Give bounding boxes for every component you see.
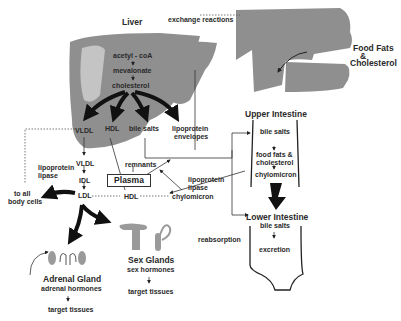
vldl-plasma: VLDL [76, 160, 94, 168]
vldl-liver: VLDL [75, 127, 93, 135]
head-shape [236, 8, 352, 92]
target-tissues-sex: target tissues [128, 288, 174, 296]
upper-intestine-label: Upper Intestine [245, 110, 307, 118]
diagram-canvas [0, 0, 401, 321]
lipoprotein-envelopes-2: envelopes [174, 133, 208, 141]
adrenal-gland-shape [30, 251, 86, 275]
ldl-plasma: LDL [78, 192, 92, 200]
pathway-acetyl: acetyl - coA [113, 52, 152, 60]
ui-bile-salts: bile salts [260, 128, 290, 136]
to-all-label: to all [14, 190, 30, 198]
target-tissues-adrenal: target tissues [48, 306, 94, 314]
idl-plasma: IDL [79, 177, 90, 185]
sex-hormones-label: sex hormones [127, 266, 174, 274]
plasma-box: Plasma [107, 174, 151, 187]
lipase-left-2: lipase [38, 172, 58, 180]
chylomicron-plasma: chylomicron [172, 193, 214, 201]
adrenal-hormones-label: adrenal hormones [41, 285, 102, 293]
intestine-arrow-icon [268, 183, 286, 210]
remnants-label: remnants [125, 161, 157, 169]
lipase-left-1: lipoprotein [38, 164, 74, 172]
reabsorption-label: reabsorption [198, 236, 241, 244]
hdl-plasma: HDL [124, 193, 138, 201]
lipoprotein-envelopes: lipoprotein [172, 125, 208, 133]
pathway-mevalonate: mevalonate [113, 67, 152, 75]
bile-salts-liver: bile salts [129, 125, 159, 133]
liver-label: Liver [122, 18, 142, 26]
body-cells-label: body cells [8, 198, 42, 206]
lipase-right-2: lipase [188, 184, 208, 192]
adrenal-gland-label: Adrenal Gland [43, 275, 101, 283]
ldl-arrows [48, 192, 104, 238]
li-excretion: excretion [259, 246, 290, 254]
ui-food-fats: food fats & [256, 151, 293, 159]
lower-intestine-label: Lower Intestine [246, 213, 308, 221]
pathway-cholesterol: cholesterol [112, 82, 149, 90]
ui-cholesterol: cholesterol [256, 159, 293, 167]
ui-chylomicron: chylomicron [255, 171, 297, 179]
li-bile-salts: bile salts [260, 222, 290, 230]
hdl-liver: HDL [105, 125, 119, 133]
lipase-right-1: lipoprotein [188, 176, 224, 184]
cholesterol-label: Cholesterol [350, 59, 397, 67]
exchange-label: exchange reactions [168, 16, 233, 24]
sex-glands-shape [120, 224, 171, 252]
sex-glands-label: Sex Glands [128, 256, 174, 264]
